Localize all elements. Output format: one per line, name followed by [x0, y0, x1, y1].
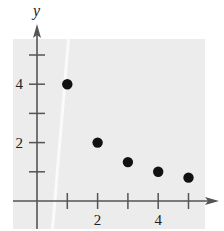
y-tick-label: 4 [16, 76, 24, 92]
y-tick-label: 2 [16, 135, 24, 151]
x-tick-label: 4 [154, 212, 162, 228]
x-tick-label: 2 [94, 212, 102, 228]
y-axis-label: y [31, 2, 41, 20]
scatter-chart: 2424 y [0, 0, 224, 231]
data-point [183, 172, 193, 182]
data-point [123, 157, 133, 167]
data-point [62, 79, 72, 89]
data-point [153, 167, 163, 177]
data-point [92, 137, 102, 147]
